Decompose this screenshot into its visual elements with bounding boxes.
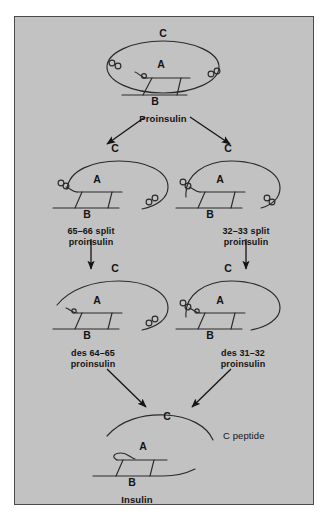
b-chain: [93, 469, 195, 476]
split-32-33-name-line2: proinsulin: [224, 237, 269, 247]
des-31-32-name-line2: proinsulin: [221, 359, 266, 369]
split-32-33-name-line1: 32–33 split: [222, 226, 269, 236]
insulin-c-label: C: [163, 411, 171, 423]
cleavage-site-right-a: [146, 199, 152, 205]
disulfide-bond-left: [198, 192, 205, 208]
cleavage-site-right-b: [152, 195, 158, 201]
split-32-33-c-label: C: [224, 143, 232, 155]
cleavage-site-right-b: [269, 199, 275, 205]
disulfide-bond-left: [75, 192, 82, 208]
cleavage-site-left-b: [185, 304, 191, 310]
cleavage-site-left-a: [180, 179, 186, 185]
c-peptide-free-arc: [107, 415, 213, 440]
disulfide-bond-right: [150, 460, 154, 476]
molecule-split-65-66: [53, 161, 168, 209]
diagram-panel: C A B Proinsulin C A B 65–66 split proin…: [14, 16, 314, 505]
cleavage-site-left-a: [180, 300, 186, 306]
split-32-33-b-label: B: [206, 209, 214, 221]
des-31-32-b-label: B: [206, 330, 214, 342]
figure-root: C A B Proinsulin C A B 65–66 split proin…: [0, 0, 328, 530]
cleavage-site-right-a: [264, 195, 270, 201]
insulin-name: Insulin: [121, 495, 152, 505]
molecule-insulin: [93, 415, 213, 476]
split-65-66-name-line1: 65–66 split: [67, 226, 114, 236]
split-32-33-a-label: A: [216, 174, 224, 186]
arrow-proinsulin-to-32-33: [190, 117, 230, 144]
split-65-66-c-label: C: [111, 143, 119, 155]
a-chain-hook: [135, 72, 147, 78]
molecule-des-31-32: [176, 281, 280, 330]
disulfide-bond-right: [231, 313, 235, 329]
disulfide-bond-right: [231, 192, 235, 208]
molecule-split-32-33: [176, 161, 280, 208]
proinsulin-a-label: A: [157, 59, 165, 71]
disulfide-bond-left: [198, 313, 205, 329]
des-64-65-name-line2: proinsulin: [71, 359, 116, 369]
cleavage-site-left-b: [115, 63, 121, 69]
des-31-32-c-label: C: [224, 263, 232, 275]
disulfide-bond-left: [75, 313, 82, 329]
molecule-des-64-65: [53, 281, 168, 330]
cleavage-site-right-b: [152, 316, 158, 322]
split-65-66-a-label: A: [93, 174, 101, 186]
a-chain-hook: [114, 453, 135, 460]
disulfide-bond-right: [108, 313, 112, 329]
arrow-des-31-32-to-insulin: [192, 369, 231, 407]
disulfide-bond-left: [116, 460, 123, 476]
des-31-32-name-line1: des 31–32: [221, 348, 265, 358]
split-65-66-b-label: B: [83, 209, 91, 221]
split-65-66-name-line2: proinsulin: [69, 237, 114, 247]
des-64-65-name-line1: des 64–65: [71, 348, 115, 358]
des-31-32-a-label: A: [216, 295, 224, 307]
arrow-des-64-65-to-insulin: [107, 369, 146, 407]
pathway-diagram: [15, 17, 313, 504]
c-peptide-arc: [67, 161, 168, 209]
proinsulin-b-label: B: [151, 96, 159, 108]
des-64-65-c-label: C: [111, 263, 119, 275]
des-64-65-b-label: B: [83, 330, 91, 342]
insulin-a-label: A: [139, 441, 147, 453]
cleavage-site-left-a: [109, 60, 115, 66]
des-64-65-a-label: A: [93, 295, 101, 307]
c-peptide-note: C peptide: [223, 431, 265, 442]
cleavage-site-right-a: [146, 320, 152, 326]
disulfide-bond-right: [108, 192, 112, 208]
insulin-b-label: B: [128, 477, 136, 489]
proinsulin-name: Proinsulin: [139, 114, 186, 125]
cleavage-site-right-a: [208, 71, 214, 77]
proinsulin-c-label: C: [159, 28, 167, 40]
